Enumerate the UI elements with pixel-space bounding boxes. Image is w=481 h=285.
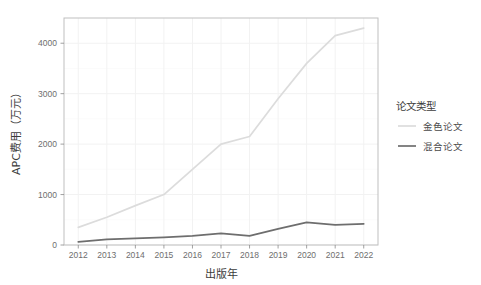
legend-item-label: 金色论文 xyxy=(423,121,463,132)
x-tick-label: 2014 xyxy=(126,250,145,260)
y-tick-label: 2000 xyxy=(38,139,57,149)
y-tick-label: 3000 xyxy=(38,89,57,99)
x-tick-label: 2022 xyxy=(354,250,373,260)
x-tick-label: 2021 xyxy=(326,250,345,260)
x-tick-label: 2013 xyxy=(97,250,116,260)
y-tick-label: 1000 xyxy=(38,190,57,200)
x-tick-label: 2020 xyxy=(297,250,316,260)
x-tick-label: 2017 xyxy=(212,250,231,260)
y-axis-title: APC费用（万元） xyxy=(10,87,23,175)
x-tick-label: 2018 xyxy=(240,250,259,260)
x-tick-label: 2012 xyxy=(69,250,88,260)
x-tick-label: 2015 xyxy=(154,250,173,260)
chart-container: 2012201320142015201620172018201920202021… xyxy=(0,0,481,285)
x-axis-tick-labels: 2012201320142015201620172018201920202021… xyxy=(69,250,374,260)
legend-title: 论文类型 xyxy=(396,100,436,112)
y-tick-label: 4000 xyxy=(38,38,57,48)
x-tick-label: 2016 xyxy=(183,250,202,260)
line-chart: 2012201320142015201620172018201920202021… xyxy=(0,0,481,285)
x-tick-label: 2019 xyxy=(269,250,288,260)
legend-item-label: 混合论文 xyxy=(423,141,463,152)
y-tick-label: 0 xyxy=(52,240,57,250)
x-axis-title: 出版年 xyxy=(205,267,238,281)
